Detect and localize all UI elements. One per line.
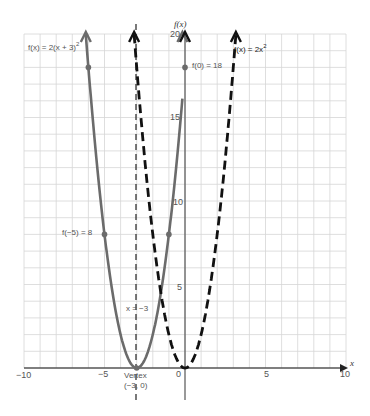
y-tick: 10	[173, 197, 183, 207]
x-tick: 5	[264, 369, 269, 379]
x-tick: 0	[176, 369, 181, 379]
vertex-coord-label: (−3, 0)	[124, 381, 148, 390]
series1-label: f(x) = 2(x + 3)2	[28, 41, 80, 52]
x-tick: 10	[340, 369, 350, 379]
series2-label: f(x) = 2x2	[234, 43, 267, 54]
data-point	[86, 65, 92, 71]
data-point	[182, 65, 188, 71]
y-tick: 5	[177, 282, 182, 292]
x-tick: −10	[16, 370, 31, 380]
y-axis-label: f(x)	[174, 19, 187, 29]
fm5-label: f(−5) = 8	[62, 228, 93, 237]
symmetry-label: x = −3	[126, 304, 149, 313]
x-tick: −5	[98, 369, 108, 379]
parabola-chart: f(x) = 2(x + 3)2 f(x) = 2x2 f(0) = 18 f(…	[0, 0, 370, 416]
x-axis-label: x	[349, 358, 354, 368]
f0-label: f(0) = 18	[192, 61, 223, 70]
data-point	[166, 232, 172, 238]
data-point	[102, 232, 108, 238]
y-tick: 20	[170, 29, 180, 39]
data-point	[134, 365, 140, 371]
y-tick: 15	[170, 112, 180, 122]
vertex-label: Vertex	[124, 371, 147, 380]
